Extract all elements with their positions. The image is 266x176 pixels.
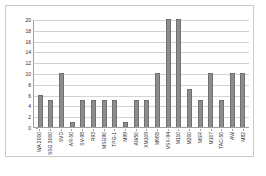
x-tick-label: M82 [240, 132, 246, 142]
x-tick-mark [232, 129, 233, 131]
x-label-slot: SVD [55, 129, 66, 163]
bar-slot [88, 20, 99, 127]
x-label-slot: M107 [205, 129, 216, 163]
x-tick-label: R93 [90, 132, 96, 141]
x-tick-mark [114, 129, 115, 131]
x-tick-label: M110 [175, 132, 181, 144]
x-tick-label: XM109 [143, 132, 149, 148]
x-tick-mark [146, 129, 147, 131]
x-label-slot: WA 2000 [34, 129, 45, 163]
bar-slot [67, 20, 78, 127]
x-tick-mark [200, 129, 201, 131]
x-label-slot: SV-98 [77, 129, 88, 163]
x-tick-label: M98B [154, 132, 160, 145]
x-tick-mark [178, 129, 179, 131]
x-tick-label: AW [229, 132, 235, 140]
x-tick-mark [125, 129, 126, 131]
bar-slot [152, 20, 163, 127]
x-tick-mark [168, 129, 169, 131]
y-tick-label: 14 [25, 50, 31, 55]
x-tick-mark [221, 129, 222, 131]
bar-slot [56, 20, 67, 127]
bar [208, 73, 213, 127]
y-axis: 20181614121086420 [11, 20, 31, 128]
bar-slot [120, 20, 131, 127]
bar [166, 19, 171, 127]
x-label-slot: XM109 [141, 129, 152, 163]
bar-slot [227, 20, 238, 127]
bar-slot [78, 20, 89, 127]
x-label-slot: AW50 [130, 129, 141, 163]
bar-slot [99, 20, 110, 127]
bar [134, 100, 139, 127]
y-tick-label: 4 [28, 104, 31, 109]
x-tick-mark [39, 129, 40, 131]
x-tick-label: VSK-94 [165, 132, 171, 149]
plot-area [33, 20, 249, 128]
x-tick-mark [157, 129, 158, 131]
y-tick-label: 6 [28, 93, 31, 98]
bar [91, 100, 96, 127]
y-tick-label: 18 [25, 28, 31, 33]
bar [219, 100, 224, 127]
x-label-slot: M110 [173, 129, 184, 163]
bar-slot [110, 20, 121, 127]
x-label-slot: MSR [195, 129, 206, 163]
x-tick-label: SVD [58, 132, 64, 142]
bar-slot [206, 20, 217, 127]
x-tick-label: MSR [197, 132, 203, 143]
bar [59, 73, 64, 127]
x-tick-label: M200 [186, 132, 192, 145]
x-tick-label: AW50 [133, 132, 139, 145]
x-label-slot: M82 [237, 129, 248, 163]
x-tick-label: M107 [208, 132, 214, 145]
bar-slot [184, 20, 195, 127]
x-tick-mark [243, 129, 244, 131]
y-tick-label: 12 [25, 61, 31, 66]
x-tick-label: SSG 3000 [47, 132, 53, 155]
chart-frame: 20181614121086420 WA 2000SSG 3000SVDAR-5… [5, 5, 254, 157]
x-tick-label: M99 [122, 132, 128, 142]
bar [70, 122, 75, 127]
bar [144, 100, 149, 127]
x-label-slot: TAC-50 [216, 129, 227, 163]
x-tick-label: AR-50 [68, 132, 74, 146]
x-label-slot: SSG 3000 [45, 129, 56, 163]
x-tick-mark [104, 129, 105, 131]
bar-slot [142, 20, 153, 127]
x-label-slot: MSG90 [98, 129, 109, 163]
bar-slot [163, 20, 174, 127]
bar-slot [35, 20, 46, 127]
bar [38, 95, 43, 127]
bar [230, 73, 235, 127]
x-tick-label: SV-98 [79, 132, 85, 146]
x-label-slot: AW [227, 129, 238, 163]
x-tick-label: TAC-50 [218, 132, 224, 149]
x-label-slot: M200 [184, 129, 195, 163]
bar [240, 73, 245, 127]
bar [112, 100, 117, 127]
y-tick-label: 8 [28, 82, 31, 87]
y-tick-label: 0 [28, 126, 31, 131]
x-tick-label: MSG90 [101, 132, 107, 149]
bar [80, 100, 85, 127]
bar-slot [216, 20, 227, 127]
bar [155, 73, 160, 127]
bar [123, 122, 128, 127]
bar [48, 100, 53, 127]
y-tick-label: 16 [25, 39, 31, 44]
bar-series [34, 20, 249, 127]
x-tick-mark [136, 129, 137, 131]
y-tick-label: 20 [25, 18, 31, 23]
x-label-slot: M99 [120, 129, 131, 163]
x-tick-mark [61, 129, 62, 131]
bar-slot [46, 20, 57, 127]
x-axis: WA 2000SSG 3000SVDAR-50SV-98R93MSG90TPG-… [33, 129, 249, 163]
bar [102, 100, 107, 127]
x-tick-label: TPG-1 [111, 132, 117, 147]
x-tick-label: WA 2000 [36, 132, 42, 152]
bar [176, 19, 181, 127]
x-label-slot: M98B [152, 129, 163, 163]
y-tick-label: 10 [25, 72, 31, 77]
bar-slot [131, 20, 142, 127]
